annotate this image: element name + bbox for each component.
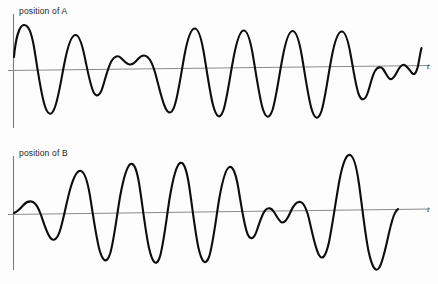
- panel-a-time-axis: [8, 66, 430, 71]
- panel-position-of-a: position of A t: [0, 0, 438, 142]
- panel-b-time-axis: [8, 209, 430, 215]
- panel-a-waveform: [14, 25, 422, 118]
- panel-a-label: position of A: [19, 6, 67, 16]
- panel-a-plot: [0, 0, 438, 142]
- panel-b-plot: [0, 142, 438, 284]
- panel-position-of-b: position of B t: [0, 142, 438, 284]
- beats-figure: position of A t position of B t: [0, 0, 438, 284]
- panel-a-time-axis-label: t: [427, 62, 429, 71]
